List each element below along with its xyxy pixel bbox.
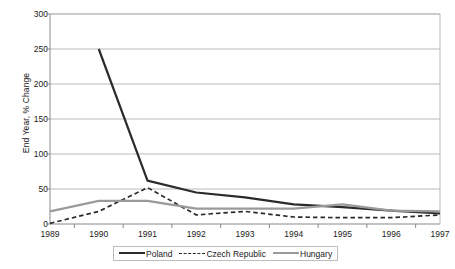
legend-item-label: Czech Republic [206,249,266,259]
line-chart: End Year, % Change 050100150200250300 19… [0,0,455,269]
legend-swatch-icon [273,251,299,257]
series-line-czech-republic [50,188,440,224]
plot-area [0,0,455,269]
legend-swatch-icon [119,251,145,257]
chart-legend: PolandCzech RepublicHungary [113,246,338,261]
legend-item-label: Poland [146,249,172,259]
legend-item-poland: Poland [119,249,172,259]
legend-item-label: Hungary [300,249,332,259]
legend-swatch-icon [179,251,205,257]
legend-item-czech-republic: Czech Republic [179,249,266,259]
legend-item-hungary: Hungary [273,249,332,259]
